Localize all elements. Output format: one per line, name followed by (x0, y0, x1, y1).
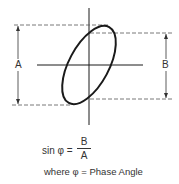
phase-angle-legend: where φ = Phase Angle (44, 166, 143, 177)
formula-denominator: A (77, 150, 91, 161)
arrow-up-icon (164, 34, 168, 39)
arrow-down-icon (164, 93, 168, 98)
label-b: B (162, 59, 169, 70)
arrow-down-icon (16, 99, 20, 104)
label-a: A (15, 59, 22, 70)
fraction-bar (77, 148, 91, 149)
arrow-up-icon (16, 26, 20, 31)
formula-numerator: B (77, 136, 91, 147)
formula-fraction: B A (77, 136, 91, 161)
formula-lhs: sin φ = (42, 145, 73, 156)
